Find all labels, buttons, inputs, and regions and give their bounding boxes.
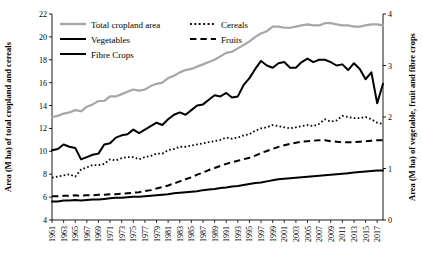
svg-text:2015: 2015: [362, 226, 371, 242]
svg-text:1961: 1961: [48, 226, 57, 242]
svg-text:2003: 2003: [292, 226, 301, 242]
svg-text:1993: 1993: [234, 226, 243, 242]
svg-text:2009: 2009: [327, 226, 336, 242]
svg-text:1969: 1969: [94, 226, 103, 242]
svg-text:16: 16: [39, 79, 47, 88]
svg-text:1983: 1983: [176, 226, 185, 242]
series-line-fibre-crops: [52, 59, 383, 160]
svg-text:2007: 2007: [315, 226, 324, 242]
svg-text:1971: 1971: [106, 226, 115, 242]
svg-text:1965: 1965: [71, 226, 80, 242]
svg-text:1973: 1973: [118, 226, 127, 242]
legend-label-cereals: Cereals: [221, 20, 248, 30]
svg-text:14: 14: [39, 102, 47, 111]
legend-label-total-cropland-area: Total cropland area: [91, 20, 160, 30]
svg-text:3: 3: [388, 62, 392, 71]
svg-text:2: 2: [388, 113, 392, 122]
svg-text:22: 22: [39, 10, 47, 19]
svg-text:1: 1: [388, 165, 392, 174]
y-axis-label-left: Area (M ha) of total cropland and cereal…: [3, 41, 13, 192]
svg-text:18: 18: [39, 56, 47, 65]
line-chart: 4681012141618202201234196119631965196719…: [0, 0, 423, 268]
svg-text:0: 0: [388, 216, 392, 225]
svg-text:1995: 1995: [245, 226, 254, 242]
svg-text:2001: 2001: [280, 226, 289, 242]
svg-text:2005: 2005: [304, 226, 313, 242]
svg-text:6: 6: [43, 193, 47, 202]
svg-text:10: 10: [39, 147, 47, 156]
legend-label-fruits: Fruits: [221, 35, 243, 45]
legend: Total cropland areaCerealsVegetablesFrui…: [60, 20, 248, 60]
svg-text:12: 12: [39, 124, 47, 133]
legend-label-fibre-crops: Fibre Crops: [91, 50, 134, 60]
svg-text:1985: 1985: [187, 226, 196, 242]
svg-text:1991: 1991: [222, 226, 231, 242]
svg-text:1979: 1979: [153, 226, 162, 242]
chart-container: 4681012141618202201234196119631965196719…: [0, 0, 423, 268]
svg-text:2017: 2017: [373, 226, 382, 242]
series-line-vegetables: [52, 171, 383, 202]
y-axis-label-right: Area (M ha) of vegetable, fruit and fibr…: [407, 32, 417, 201]
svg-text:1963: 1963: [60, 226, 69, 242]
svg-text:20: 20: [39, 33, 47, 42]
svg-text:1997: 1997: [257, 226, 266, 242]
svg-text:4: 4: [388, 10, 392, 19]
svg-text:2013: 2013: [350, 226, 359, 242]
svg-text:1967: 1967: [83, 226, 92, 242]
svg-text:1999: 1999: [269, 226, 278, 242]
svg-text:1987: 1987: [199, 226, 208, 242]
legend-label-vegetables: Vegetables: [91, 35, 130, 45]
svg-text:1975: 1975: [129, 226, 138, 242]
svg-text:1977: 1977: [141, 226, 150, 242]
svg-text:1981: 1981: [164, 226, 173, 242]
svg-text:1989: 1989: [211, 226, 220, 242]
svg-text:8: 8: [43, 170, 47, 179]
svg-text:4: 4: [43, 216, 47, 225]
svg-text:2011: 2011: [338, 226, 347, 242]
